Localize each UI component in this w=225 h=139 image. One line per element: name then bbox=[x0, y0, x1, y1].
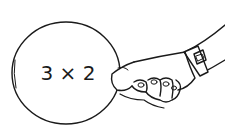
card-expression: 3 × 2 bbox=[38, 60, 98, 86]
hand-holding-card-drawing bbox=[0, 0, 225, 139]
hand-icon bbox=[112, 25, 225, 108]
illustration: 3 × 2 bbox=[0, 0, 225, 139]
